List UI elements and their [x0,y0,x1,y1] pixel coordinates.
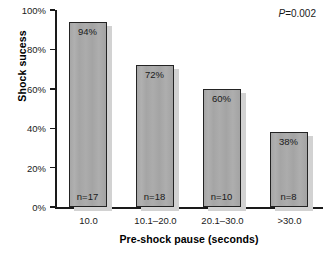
y-axis-line [55,10,57,207]
y-axis-tick-label: 40% [27,123,46,134]
y-axis-tick-label: 0% [32,202,46,213]
bar-group: 38%n=8 [270,132,308,207]
bar[interactable]: 72%n=18 [136,65,174,207]
bar-value-label: 94% [70,26,106,37]
y-axis-tick-label: 100% [22,5,46,16]
bar-count-label: n=10 [204,191,240,202]
bar-group: 72%n=18 [136,65,174,207]
y-axis-tick-label: 60% [27,83,46,94]
bar[interactable]: 38%n=8 [270,132,308,207]
p-value-number: =0.002 [285,8,316,19]
bar-group: 94%n=17 [69,22,107,207]
y-axis-tick [50,206,55,207]
bar-count-label: n=8 [271,191,307,202]
x-axis-title: Pre-shock pause (seconds) [55,233,323,245]
y-axis-tick [50,49,55,50]
x-axis-tick-label: >30.0 [251,215,328,226]
y-axis-tick [50,167,55,168]
y-axis-tick [50,128,55,129]
bar-chart-figure: Shock sucess 0%20%40%60%80%100% 94%n=177… [0,0,328,255]
p-value-annotation: P=0.002 [278,8,316,19]
bar-value-label: 60% [204,93,240,104]
bar-count-label: n=17 [70,191,106,202]
bar[interactable]: 60%n=10 [203,89,241,207]
bar-group: 60%n=10 [203,89,241,207]
bar-value-label: 38% [271,136,307,147]
y-axis-tick [50,88,55,89]
y-axis-tick [50,9,55,10]
bar-value-label: 72% [137,69,173,80]
y-axis-title: Shock sucess [16,0,28,136]
bar-count-label: n=18 [137,191,173,202]
bar[interactable]: 94%n=17 [69,22,107,207]
y-axis-tick-label: 20% [27,162,46,173]
y-axis-tick-label: 80% [27,44,46,55]
plot-area: 0%20%40%60%80%100% 94%n=1772%n=1860%n=10… [55,10,323,207]
